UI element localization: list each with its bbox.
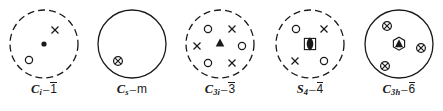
stereogram-disc-ci — [8, 8, 80, 80]
projection-circle-solid — [98, 10, 166, 78]
center-symbol-filled-triangle — [216, 39, 225, 47]
hermann-mauguin-symbol: 6 — [409, 82, 416, 96]
stereogram-disc-c3i — [184, 8, 256, 80]
pole-cross — [52, 27, 59, 34]
pole-open-circle — [292, 25, 299, 32]
center-symbol-s4-lens — [304, 38, 315, 51]
pole-cross — [229, 26, 236, 33]
caption-c3h: C3h–6 — [355, 82, 443, 97]
schoenflies-symbol: C — [117, 82, 125, 96]
pole-circle-cross — [381, 62, 390, 71]
point-group-stereogram-figure: Ci–1 Cs–m — [0, 0, 443, 111]
pole-circle-cross — [383, 22, 392, 31]
caption-dash: – — [220, 82, 228, 96]
disc-svg-c3h — [363, 8, 435, 80]
caption-s4: S4–4 — [266, 82, 354, 97]
hermann-mauguin-symbol: 3 — [228, 82, 235, 96]
schoenflies-symbol: C — [205, 82, 213, 96]
caption-dash: – — [400, 82, 408, 96]
caption-c3i: C3i–3 — [176, 82, 264, 97]
pole-open-circle — [320, 57, 327, 64]
pole-circle-cross — [417, 44, 426, 53]
stereogram-c3h: C3h–6 — [355, 0, 443, 111]
stereogram-disc-s4 — [274, 8, 346, 80]
stereogram-disc-c3h — [363, 8, 435, 80]
pole-cross — [321, 26, 328, 33]
disc-svg-c3i — [184, 8, 256, 80]
caption-dash: – — [308, 82, 316, 96]
disc-svg-ci — [8, 8, 80, 80]
stereogram-s4: S4–4 — [266, 0, 354, 111]
stereogram-disc-cs — [96, 8, 168, 80]
hermann-mauguin-symbol: 4 — [317, 82, 324, 96]
schoenflies-symbol: C — [383, 82, 391, 96]
pole-open-circle — [238, 42, 245, 49]
schoenflies-subscript: 3h — [391, 87, 400, 97]
caption-ci: Ci–1 — [0, 82, 88, 97]
center-symbol-filled-dot — [41, 41, 46, 46]
hermann-mauguin-symbol: m — [137, 82, 147, 96]
pole-cross — [292, 58, 299, 65]
caption-cs: Cs–m — [88, 82, 176, 97]
pole-cross — [229, 60, 236, 67]
pole-open-circle — [25, 56, 32, 63]
center-symbol-hexagon-triangle — [393, 37, 404, 50]
pole-open-circle — [204, 25, 211, 32]
caption-dash: – — [129, 82, 137, 96]
stereogram-cs: Cs–m — [88, 0, 176, 111]
stereogram-ci: Ci–1 — [0, 0, 88, 111]
hermann-mauguin-symbol: 1 — [50, 82, 57, 96]
disc-svg-cs — [96, 8, 168, 80]
disc-svg-s4 — [274, 8, 346, 80]
caption-dash: – — [42, 82, 50, 96]
pole-open-circle — [204, 59, 211, 66]
pole-circle-cross — [114, 57, 123, 66]
stereogram-c3i: C3i–3 — [176, 0, 264, 111]
schoenflies-symbol: S — [297, 82, 304, 96]
pole-cross — [194, 43, 201, 50]
